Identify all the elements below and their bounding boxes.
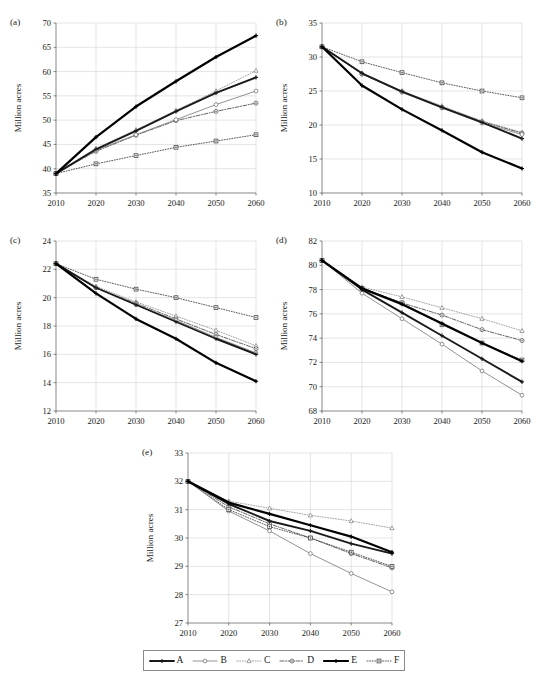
y-tick-label: 78 — [308, 285, 317, 295]
x-tick-label: 2010 — [313, 416, 330, 426]
data-point-marker — [349, 572, 353, 576]
data-point-marker — [254, 101, 258, 105]
y-tick-label: 65 — [42, 42, 51, 52]
series-line-C — [56, 264, 256, 346]
x-tick-label: 2050 — [207, 416, 224, 426]
x-tick-label: 2030 — [393, 198, 410, 208]
legend-marker-B — [192, 655, 218, 667]
legend-label-E: E — [351, 656, 357, 666]
data-point-marker — [134, 287, 138, 291]
y-tick-label: 55 — [42, 91, 51, 101]
legend-item-E: E — [323, 655, 357, 667]
data-point-marker — [440, 305, 444, 309]
series-line-C — [322, 260, 522, 330]
y-tick-label: 30 — [174, 533, 183, 543]
chart-legend: ABCDEF — [143, 650, 405, 671]
panel-tag-a: (a) — [10, 17, 20, 27]
legend-marker-F — [366, 655, 392, 667]
chart-panel-a: (a)3540455055606570201020202030204020502… — [8, 10, 266, 215]
y-tick-label: 82 — [308, 236, 317, 246]
y-tick-label: 20 — [308, 120, 317, 130]
legend-label-C: C — [264, 656, 270, 666]
x-tick-label: 2030 — [127, 416, 144, 426]
x-tick-label: 2020 — [353, 198, 370, 208]
y-tick-label: 10 — [308, 188, 317, 198]
y-tick-label: 14 — [42, 378, 51, 388]
data-point-marker — [159, 658, 163, 662]
figure-panel-grid: (a)3540455055606570201020202030204020502… — [0, 0, 541, 682]
data-point-marker — [254, 347, 258, 351]
data-point-marker — [247, 658, 251, 662]
data-point-marker — [214, 109, 218, 113]
series-line-A — [188, 481, 392, 553]
data-point-marker — [214, 306, 218, 310]
y-tick-label: 31 — [174, 505, 183, 515]
y-tick-label: 35 — [42, 188, 51, 198]
x-tick-label: 2020 — [353, 416, 370, 426]
legend-label-D: D — [307, 656, 314, 666]
data-point-marker — [254, 133, 258, 137]
y-tick-label: 40 — [42, 164, 51, 174]
y-tick-label: 50 — [42, 115, 51, 125]
series-line-A — [322, 260, 522, 381]
data-point-marker — [400, 71, 404, 75]
x-tick-label: 2040 — [433, 416, 450, 426]
x-tick-label: 2060 — [383, 628, 400, 638]
data-point-marker — [480, 89, 484, 93]
legend-label-B: B — [220, 656, 226, 666]
data-point-marker — [254, 68, 258, 72]
data-point-marker — [268, 506, 272, 510]
y-axis-title: Million acres — [13, 301, 23, 350]
y-tick-label: 76 — [308, 309, 317, 319]
data-point-marker — [520, 329, 524, 333]
legend-item-A: A — [149, 655, 184, 667]
series-line-E — [322, 260, 522, 361]
chart-svg-c: (c)1214161820222420102020203020402050206… — [8, 228, 266, 433]
data-point-marker — [390, 564, 394, 568]
data-point-marker — [520, 133, 524, 137]
data-point-marker — [360, 291, 364, 295]
data-point-marker — [309, 552, 313, 556]
y-tick-label: 24 — [42, 236, 51, 246]
chart-panel-c: (c)1214161820222420102020203020402050206… — [8, 228, 266, 433]
data-point-marker — [308, 529, 312, 533]
x-tick-label: 2030 — [261, 628, 278, 638]
x-tick-label: 2050 — [473, 416, 490, 426]
y-tick-label: 30 — [308, 52, 317, 62]
series-line-F — [188, 481, 392, 566]
data-point-marker — [390, 526, 394, 530]
series-line-E — [322, 47, 522, 169]
y-tick-label: 70 — [308, 382, 317, 392]
data-point-marker — [390, 590, 394, 594]
y-tick-label: 74 — [308, 333, 317, 343]
x-tick-label: 2020 — [87, 416, 104, 426]
legend-item-B: B — [192, 655, 226, 667]
data-point-marker — [174, 296, 178, 300]
data-point-marker — [480, 369, 484, 373]
y-axis-title: Million acres — [13, 83, 23, 132]
x-tick-label: 2050 — [473, 198, 490, 208]
y-tick-label: 27 — [174, 618, 183, 628]
y-tick-label: 80 — [308, 260, 317, 270]
x-tick-label: 2060 — [247, 198, 264, 208]
chart-svg-a: (a)3540455055606570201020202030204020502… — [8, 10, 266, 215]
series-line-B — [56, 91, 256, 174]
series-line-F — [56, 135, 256, 174]
data-point-marker — [308, 513, 312, 517]
panel-tag-d: (d) — [276, 235, 287, 245]
y-axis-title: Million acres — [279, 301, 289, 350]
series-line-B — [56, 264, 256, 353]
x-tick-label: 2010 — [47, 416, 64, 426]
legend-label-A: A — [177, 656, 184, 666]
panel-tag-c: (c) — [10, 235, 20, 245]
data-point-marker — [214, 103, 218, 107]
y-tick-label: 28 — [174, 590, 183, 600]
y-tick-label: 45 — [42, 139, 51, 149]
data-point-marker — [440, 342, 444, 346]
y-tick-label: 68 — [308, 406, 317, 416]
data-point-marker — [309, 536, 313, 540]
x-tick-label: 2040 — [433, 198, 450, 208]
x-tick-label: 2060 — [247, 416, 264, 426]
data-point-marker — [134, 133, 138, 137]
data-point-marker — [134, 154, 138, 158]
